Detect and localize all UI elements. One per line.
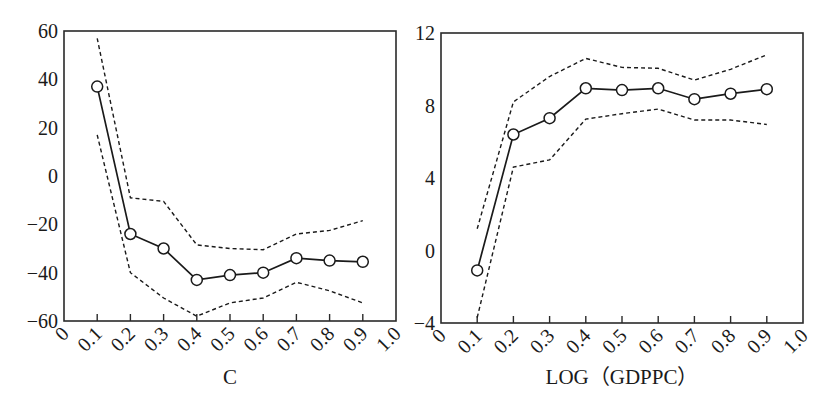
chart-c-plot: 6040200−20−40−6000.10.20.30.40.50.60.70.…	[0, 0, 414, 405]
x-tick-label: 0.4	[561, 324, 594, 357]
y-tick-label: 40	[38, 68, 58, 90]
upper-bound-line	[97, 38, 363, 249]
data-point-marker	[158, 243, 169, 254]
data-point-marker	[689, 94, 700, 105]
y-tick-label: −20	[27, 213, 58, 235]
lower-bound-line	[477, 109, 767, 318]
x-tick-label: 0.5	[598, 324, 631, 357]
y-tick-label: −40	[27, 262, 58, 284]
x-tick-label: 0.8	[706, 324, 739, 357]
chart-c: 6040200−20−40−6000.10.20.30.40.50.60.70.…	[0, 0, 414, 405]
x-tick-label: 0.1	[453, 324, 486, 357]
data-point-marker	[191, 274, 202, 285]
data-point-marker	[125, 229, 136, 240]
chart-log-gdppc-plot: 12840−400.10.20.30.40.50.60.70.80.91.0LO…	[414, 0, 828, 405]
data-point-marker	[225, 270, 236, 281]
data-point-marker	[580, 83, 591, 94]
x-tick-label: 0.1	[73, 322, 106, 355]
data-point-marker	[472, 265, 483, 276]
data-point-marker	[291, 253, 302, 264]
estimate-line	[97, 87, 363, 280]
data-point-marker	[653, 83, 664, 94]
x-tick-label: 0.4	[172, 322, 205, 355]
x-tick-label: 0	[427, 324, 450, 347]
x-tick-label: 1.0	[779, 324, 812, 357]
x-tick-label: 0.6	[239, 322, 272, 355]
lower-bound-line	[97, 135, 363, 316]
x-tick-label: 0.9	[338, 322, 371, 355]
data-point-marker	[544, 113, 555, 124]
chart-log-gdppc: 12840−400.10.20.30.40.50.60.70.80.91.0LO…	[414, 0, 828, 405]
y-tick-label: 0	[425, 240, 435, 262]
x-tick-label: 0	[50, 322, 73, 345]
x-axis-title: C	[223, 365, 237, 389]
x-tick-label: 1.0	[372, 322, 405, 355]
y-tick-label: 8	[425, 95, 435, 117]
x-tick-label: 0.5	[206, 322, 239, 355]
x-tick-label: 0.8	[305, 322, 338, 355]
x-tick-label: 0.9	[742, 324, 775, 357]
y-tick-label: 4	[425, 167, 435, 189]
data-point-marker	[761, 84, 772, 95]
x-tick-label: 0.2	[489, 324, 522, 357]
x-tick-label: 0.7	[670, 324, 703, 357]
estimate-line	[477, 88, 767, 270]
data-point-marker	[725, 88, 736, 99]
x-tick-label: 0.2	[106, 322, 139, 355]
y-tick-label: 12	[415, 22, 435, 44]
data-point-marker	[357, 256, 368, 267]
y-tick-label: 0	[48, 165, 58, 187]
x-tick-label: 0.7	[272, 322, 305, 355]
data-point-marker	[617, 85, 628, 96]
plot-frame	[441, 33, 803, 323]
y-tick-label: 60	[38, 20, 58, 42]
data-point-marker	[508, 129, 519, 140]
upper-bound-line	[477, 55, 767, 229]
data-point-marker	[92, 81, 103, 92]
data-point-marker	[324, 255, 335, 266]
data-point-marker	[258, 267, 269, 278]
x-axis-title: LOG（GDPPC）	[546, 365, 699, 389]
y-tick-label: 20	[38, 117, 58, 139]
x-tick-label: 0.6	[634, 324, 667, 357]
x-tick-label: 0.3	[525, 324, 558, 357]
x-tick-label: 0.3	[139, 322, 172, 355]
